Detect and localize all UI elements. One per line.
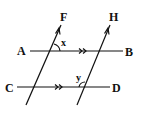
label-f: F: [60, 10, 67, 24]
transversal-right: [77, 25, 110, 105]
label-c: C: [5, 81, 14, 95]
label-angle-x: x: [61, 37, 66, 48]
label-a: A: [17, 44, 26, 58]
label-h: H: [109, 10, 119, 24]
label-d: D: [112, 81, 121, 95]
label-angle-y: y: [76, 72, 81, 83]
angle-arc-x: [54, 44, 60, 51]
parallel-lines-diagram: F H A B C D x y: [0, 0, 141, 116]
label-b: B: [125, 45, 133, 59]
transversal-left: [26, 25, 61, 105]
